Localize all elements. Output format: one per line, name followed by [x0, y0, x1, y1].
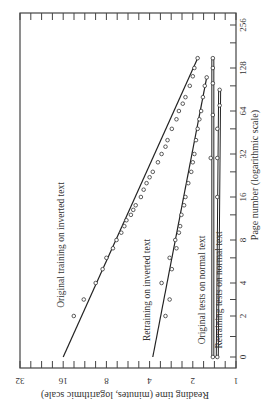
data-point	[125, 218, 129, 222]
data-point	[215, 127, 219, 131]
data-point	[186, 181, 190, 185]
series-label: Retraining on inverted text	[142, 239, 152, 341]
data-point	[94, 281, 98, 285]
data-point	[193, 152, 197, 156]
data-point	[191, 160, 195, 164]
series-label: Retraining tests on normal text	[214, 231, 224, 349]
data-point	[177, 109, 181, 113]
learning-curve-chart: 024816326412825612481632 Original traini…	[0, 0, 274, 414]
data-series: Original training on inverted textRetrai…	[56, 56, 224, 358]
data-point	[178, 224, 182, 228]
data-point	[72, 314, 76, 318]
page-tick-label: 32	[238, 150, 248, 159]
data-point	[215, 156, 219, 160]
data-point	[177, 231, 181, 235]
time-tick-label: 4	[147, 376, 152, 386]
time-tick-label: 2	[191, 376, 196, 386]
data-point	[188, 84, 192, 88]
page-tick-label: 8	[238, 237, 248, 242]
data-point	[211, 113, 215, 117]
data-point	[184, 95, 188, 99]
page-tick-label: 16	[238, 192, 248, 202]
data-point	[168, 298, 172, 302]
data-point	[194, 138, 198, 142]
page-tick-label: 64	[238, 106, 248, 116]
data-point	[170, 267, 174, 271]
time-axis-title: Reading time (minutes, logarithmic scale…	[41, 389, 209, 401]
time-tick-label: 1	[234, 376, 239, 386]
page-tick-label: 128	[238, 61, 248, 75]
data-point	[101, 267, 105, 271]
data-point	[182, 203, 186, 207]
data-point	[166, 138, 170, 142]
data-point	[131, 208, 135, 212]
data-point	[156, 160, 160, 164]
series-label: Original training on inverted text	[56, 182, 66, 308]
data-point	[218, 104, 222, 108]
series-3: Retraining tests on normal text	[214, 88, 224, 359]
data-point	[191, 74, 195, 78]
data-point	[160, 281, 164, 285]
data-point	[111, 246, 115, 250]
data-point	[134, 203, 138, 207]
data-point	[175, 246, 179, 250]
data-point	[181, 102, 185, 106]
data-point	[82, 298, 86, 302]
data-point	[164, 314, 168, 318]
data-point	[211, 66, 215, 70]
data-point	[123, 224, 127, 228]
data-point	[199, 109, 203, 113]
data-point	[215, 355, 219, 359]
data-point	[160, 152, 164, 156]
data-point	[211, 355, 215, 359]
series-0: Original training on inverted text	[56, 56, 199, 357]
time-tick-label: 16	[58, 376, 68, 386]
series-2: Original tests on normal text	[197, 56, 215, 358]
page-tick-label: 256	[238, 18, 248, 32]
page-tick-label: 0	[238, 354, 248, 359]
data-point	[151, 170, 155, 174]
data-point	[180, 213, 184, 217]
time-tick-label: 32	[16, 376, 25, 386]
series-label: Original tests on normal text	[197, 235, 207, 344]
data-point	[105, 256, 109, 260]
data-point	[211, 56, 215, 60]
time-tick-label: 8	[104, 376, 109, 386]
page-tick-label: 2	[238, 314, 248, 319]
data-point	[175, 117, 179, 121]
data-point	[184, 195, 188, 199]
data-point	[218, 88, 222, 92]
data-point	[168, 256, 172, 260]
data-point	[211, 82, 215, 86]
data-point	[145, 181, 149, 185]
data-point	[170, 127, 174, 131]
data-point	[173, 238, 177, 242]
data-point	[205, 76, 209, 80]
data-point	[139, 195, 143, 199]
data-point	[164, 145, 168, 149]
data-point	[196, 56, 200, 60]
data-point	[119, 231, 123, 235]
data-point	[129, 213, 133, 217]
data-point	[215, 195, 219, 199]
data-point	[115, 238, 119, 242]
data-point	[189, 170, 193, 174]
data-point	[198, 117, 202, 121]
data-point	[196, 127, 200, 131]
page-axis-title: Page number (logarithmic scale)	[249, 110, 261, 240]
data-point	[201, 95, 205, 99]
data-point	[203, 84, 207, 88]
data-point	[209, 156, 213, 160]
data-point	[142, 188, 146, 192]
page-tick-label: 4	[238, 280, 248, 285]
data-point	[193, 66, 197, 70]
data-point	[148, 175, 152, 179]
